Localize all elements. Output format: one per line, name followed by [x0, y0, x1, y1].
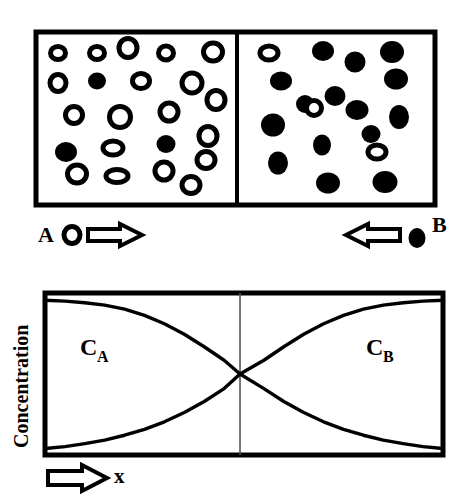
chart-xlabel: x	[114, 464, 125, 488]
particle-open	[197, 152, 215, 169]
legend-label-b: B	[432, 212, 447, 237]
particle-open	[50, 75, 66, 92]
particle-filled	[316, 173, 340, 194]
particle-open	[133, 74, 150, 89]
particle-open	[66, 107, 83, 124]
particle-open	[68, 165, 87, 183]
particle-filled	[346, 100, 369, 120]
particle-filled	[270, 72, 292, 91]
particle-filled	[313, 135, 331, 156]
particle-filled	[384, 69, 408, 90]
particle-filled	[325, 86, 346, 106]
legend-filled-circle-icon	[409, 228, 426, 248]
particle-open	[51, 47, 66, 60]
particle-filled	[55, 142, 77, 162]
particle-filled	[312, 41, 334, 61]
particle-open	[182, 177, 200, 194]
particle-open	[207, 91, 225, 110]
particle-filled	[157, 135, 176, 153]
diffusion-couple-diagram	[36, 32, 435, 205]
particle-filled	[88, 73, 106, 90]
particle-open	[160, 103, 178, 121]
particle-filled	[261, 114, 285, 137]
particle-filled	[362, 125, 381, 143]
chart-plot-frame	[45, 293, 443, 455]
particle-open	[368, 145, 386, 159]
particle-open	[90, 47, 105, 60]
legend-label-a: A	[38, 222, 54, 247]
particle-filled	[389, 105, 409, 129]
particle-filled	[380, 41, 404, 63]
particle-open	[260, 46, 278, 60]
particle-open	[110, 107, 131, 128]
particle-filled	[268, 152, 288, 175]
particle-filled	[373, 171, 398, 193]
particle-open	[103, 141, 123, 155]
particle-filled	[345, 52, 366, 73]
particle-open	[307, 101, 322, 116]
particle-open	[106, 170, 128, 183]
particle-open	[159, 46, 174, 60]
annotation-cb-subscript: B	[383, 348, 394, 365]
annotation-ca-subscript: A	[97, 348, 109, 365]
chart-ylabel: Concentration	[10, 325, 32, 448]
particle-open	[199, 127, 217, 146]
diffusion-figure: A B Concentration C A C B x	[0, 0, 469, 504]
particle-open	[204, 43, 223, 61]
particle-open	[119, 39, 137, 58]
particle-open	[155, 162, 173, 180]
particle-open	[182, 73, 202, 93]
annotation-cb-symbol: C	[366, 334, 383, 360]
annotation-ca-symbol: C	[80, 334, 97, 360]
